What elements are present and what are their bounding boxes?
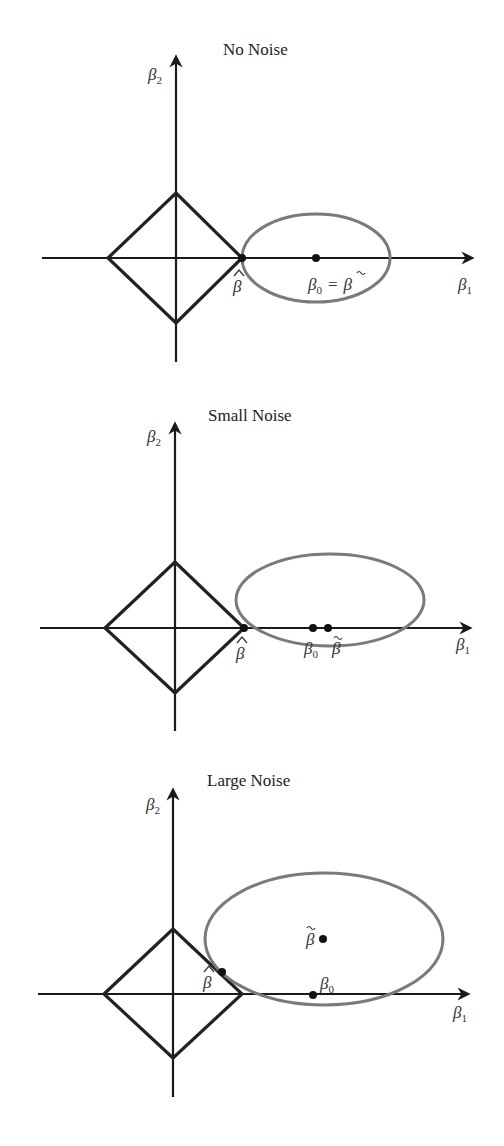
svg-text:β: β [232,277,242,296]
loss-contour-ellipse [236,554,424,646]
beta-hat-label: β [202,966,214,992]
beta-0-label: β0 [319,974,334,995]
svg-text:β: β [305,930,315,949]
panel-title: Small Noise [208,406,292,425]
x-axis-label: β1 [452,1003,467,1024]
figure-canvas: No Noise β2 β1 β β0=β Small Noise β2 β1 [0,0,504,1146]
beta-hat-point [218,968,226,976]
beta-tilde-label: β [305,927,315,950]
svg-text:β0=β: β0=β [307,275,353,296]
panel-title: Large Noise [207,771,290,790]
beta-hat-label: β [235,637,247,663]
beta-0-point [309,624,317,632]
beta-tilde-point [324,624,332,632]
beta-0-point [309,991,317,999]
beta-hat-point [238,254,246,262]
y-axis-label: β2 [146,427,161,448]
beta-0-point [312,254,320,262]
beta-0-equals-beta-tilde-label: β0=β [307,272,365,297]
x-axis-label: β1 [457,275,472,296]
beta-0-label: β0 [303,639,318,660]
x-axis-label: β1 [455,635,470,656]
panel-title: No Noise [223,40,288,59]
svg-text:β0: β0 [303,639,318,660]
svg-text:β: β [202,973,212,992]
y-axis-label: β2 [147,65,162,86]
hat-accent [234,270,244,276]
beta-hat-label: β [232,270,244,296]
svg-text:β: β [331,639,341,658]
svg-text:β: β [235,644,245,663]
y-axis-label: β2 [145,795,160,816]
panel-large-noise: Large Noise β2 β1 β β β0 [38,771,468,1097]
beta-tilde-label: β [331,637,342,659]
hat-accent [237,637,247,643]
tilde-accent [357,272,365,275]
panel-no-noise: No Noise β2 β1 β β0=β [42,40,472,362]
beta-hat-point [240,624,248,632]
beta-tilde-point [319,935,327,943]
svg-text:β0: β0 [319,974,334,995]
panel-small-noise: Small Noise β2 β1 β β0 β [40,406,470,731]
